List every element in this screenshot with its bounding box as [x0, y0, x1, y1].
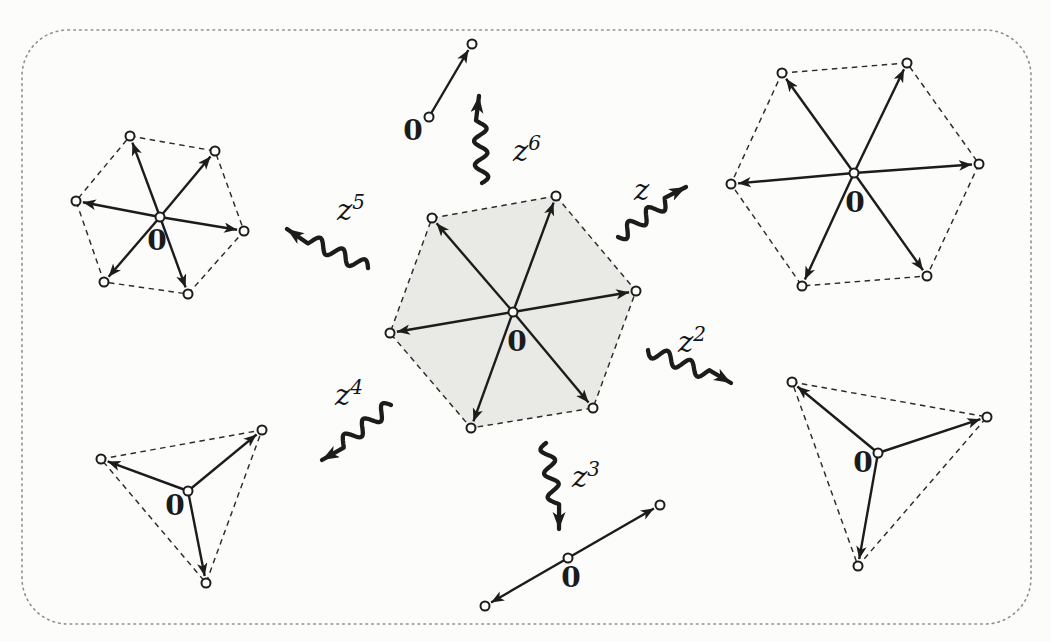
radius-arrow — [132, 143, 160, 217]
vertex-dot — [258, 426, 267, 435]
vertex-dot — [211, 147, 220, 156]
origin-label: 0 — [845, 186, 864, 219]
squiggle-arrow — [322, 403, 391, 460]
vertex-dot — [481, 602, 490, 611]
squiggle-arrow — [287, 229, 368, 268]
map-label: z4 — [334, 375, 363, 412]
radius-arrow — [160, 217, 237, 230]
vertex-dot — [923, 272, 932, 281]
origin-label: 0 — [147, 224, 166, 257]
map-arrow-z3: z3 — [541, 443, 601, 529]
radius-arrow — [786, 79, 854, 173]
radius-arrow — [491, 558, 568, 603]
vertex-dot — [240, 227, 249, 236]
vertex-dot — [184, 290, 193, 299]
radius-arrow — [738, 173, 854, 183]
radius-arrow — [878, 419, 980, 453]
radius-arrow — [188, 435, 257, 492]
map-arrow-z4: z4 — [322, 375, 391, 460]
squiggle-arrow — [474, 96, 488, 183]
vertex-dot — [798, 282, 807, 291]
vertex-dot — [656, 501, 665, 510]
map-label: z6 — [512, 131, 541, 168]
dashed-outline — [792, 382, 987, 566]
image-segment-z3: 0 — [481, 501, 665, 611]
radius-arrow — [429, 50, 468, 117]
map-arrow-z2: z2 — [648, 322, 731, 383]
map-label: z — [633, 173, 650, 207]
vertex-dot — [975, 160, 984, 169]
radius-arrow — [188, 491, 205, 576]
vertex-dot — [854, 562, 863, 571]
vertex-dot — [632, 287, 641, 296]
vertex-dot — [467, 424, 476, 433]
radius-arrow — [160, 156, 211, 217]
vertex-dot — [72, 197, 81, 206]
map-arrow-z6: z6 — [474, 96, 541, 183]
vertex-dot — [788, 378, 797, 387]
image-arrow-z6: 0 — [403, 40, 476, 148]
radius-arrow — [797, 387, 878, 454]
image-hexagon-z: 0 — [727, 59, 984, 291]
center-dot — [156, 213, 165, 222]
image-hexagon-z5: 0 — [72, 132, 249, 299]
figure-canvas: 0000000zz2z3z4z5z6 — [0, 0, 1051, 642]
origin-label: 0 — [507, 325, 526, 358]
vertex-dot — [727, 180, 736, 189]
vertex-dot — [983, 413, 992, 422]
vertex-dot — [778, 69, 787, 78]
map-label: z2 — [677, 322, 706, 359]
center-dot — [850, 169, 859, 178]
vertex-dot — [589, 404, 598, 413]
radius-arrow — [108, 461, 188, 491]
vertex-dot — [468, 40, 477, 49]
powers-of-z-diagram: 0000000zz2z3z4z5z6 — [0, 0, 1051, 642]
vertex-dot — [428, 214, 437, 223]
radius-arrow — [854, 165, 972, 174]
origin-label: 0 — [403, 114, 422, 147]
origin-label: 0 — [165, 489, 184, 522]
center-dot — [184, 487, 193, 496]
radius-arrow — [854, 69, 904, 173]
center-dot — [874, 449, 883, 458]
map-arrow-z: z — [618, 173, 686, 239]
radius-arrow — [83, 202, 160, 217]
center-dot — [425, 113, 434, 122]
origin-label: 0 — [561, 561, 580, 594]
vertex-dot — [126, 132, 135, 141]
map-label: z5 — [336, 190, 365, 227]
vertex-dot — [202, 579, 211, 588]
vertex-dot — [903, 59, 912, 68]
squiggle-arrow — [618, 187, 686, 239]
image-triangle-z4: 0 — [97, 426, 267, 588]
center-dot — [509, 308, 518, 317]
image-triangle-z2: 0 — [788, 378, 992, 571]
map-label: z3 — [571, 457, 600, 494]
vertex-dot — [552, 192, 561, 201]
vertex-dot — [100, 278, 109, 287]
vertex-dot — [97, 455, 106, 464]
origin-label: 0 — [853, 446, 872, 479]
vertex-dot — [386, 329, 395, 338]
radius-arrow — [568, 509, 654, 559]
squiggle-arrow — [541, 443, 560, 529]
domain-hexagon-shaded: 0 — [386, 192, 641, 433]
map-arrow-z5: z5 — [287, 190, 368, 268]
